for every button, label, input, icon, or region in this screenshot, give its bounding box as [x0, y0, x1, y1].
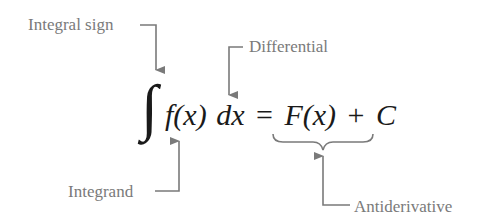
integral-diagram: Integral sign Differential Integrand Ant… — [0, 0, 485, 220]
differential-expression: dx — [216, 98, 244, 131]
plus-sign: + — [348, 98, 365, 131]
integral-symbol: ∫ — [141, 76, 158, 138]
equals-sign: = — [256, 98, 273, 131]
integrand-label: Integrand — [68, 183, 133, 200]
antiderivative-label: Antiderivative — [354, 198, 452, 215]
differential-label: Differential — [249, 38, 328, 55]
antiderivative-arrow — [323, 156, 350, 205]
antiderivative-expression: F(x) — [284, 98, 336, 131]
constant-of-integration: C — [376, 98, 396, 131]
integral-sign-arrow — [140, 25, 156, 70]
integral-sign-label: Integral sign — [28, 16, 113, 33]
differential-arrow — [229, 47, 243, 95]
integrand-arrow — [155, 141, 179, 191]
integrand-expression: f(x) — [165, 98, 207, 131]
equation: f(x) dx = F(x) + C — [165, 100, 396, 130]
antiderivative-brace — [273, 134, 373, 150]
